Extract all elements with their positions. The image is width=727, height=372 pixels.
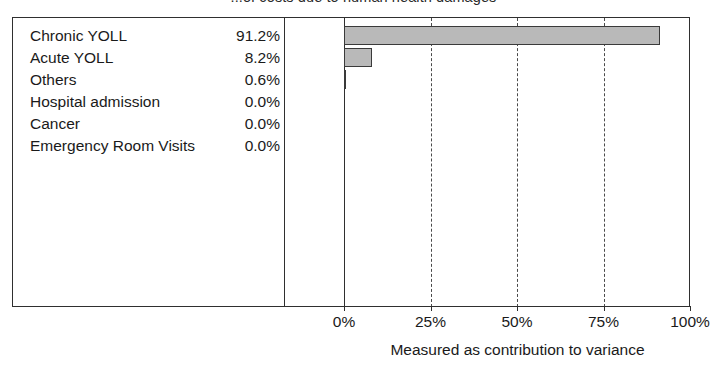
table-row: Acute YOLL8.2%	[13, 47, 284, 69]
bar-slot	[344, 69, 690, 91]
bar-slot	[344, 25, 690, 47]
bar	[344, 26, 660, 45]
bar	[344, 70, 346, 89]
x-axis-tick	[517, 306, 518, 311]
bar-slot	[344, 113, 690, 135]
category-label: Cancer	[13, 116, 206, 132]
table-row: Chronic YOLL91.2%	[13, 25, 284, 47]
category-value: 0.0%	[206, 94, 284, 110]
x-axis-tick-label: 25%	[415, 313, 446, 331]
category-value: 91.2%	[206, 28, 284, 44]
category-value: 8.2%	[206, 50, 284, 66]
chart-title: ...of costs due to human health damages	[0, 0, 727, 5]
table-row: Hospital admission0.0%	[13, 91, 284, 113]
bar	[344, 48, 372, 67]
category-label: Acute YOLL	[13, 50, 206, 66]
x-axis-tick-label: 0%	[333, 313, 355, 331]
table-row: Emergency Room Visits0.0%	[13, 135, 284, 157]
x-axis-tick-label: 100%	[670, 313, 710, 331]
x-axis-tick-labels: 0%25%50%75%100%	[0, 313, 727, 333]
category-label: Others	[13, 72, 206, 88]
x-axis-tick	[604, 306, 605, 311]
bar-slot	[344, 135, 690, 157]
category-label: Chronic YOLL	[13, 28, 206, 44]
bar-slot	[344, 91, 690, 113]
x-axis-title: Measured as contribution to variance	[344, 341, 691, 359]
category-value: 0.0%	[206, 138, 284, 154]
bar-slot	[344, 47, 690, 69]
bar-series	[344, 18, 690, 307]
plot-area	[344, 18, 690, 307]
x-axis-tick	[690, 306, 691, 311]
category-label: Hospital admission	[13, 94, 206, 110]
category-value: 0.0%	[206, 116, 284, 132]
category-value: 0.6%	[206, 72, 284, 88]
x-axis-tick-label: 50%	[501, 313, 532, 331]
column-divider	[284, 18, 285, 306]
table-row: Cancer0.0%	[13, 113, 284, 135]
category-value-table: Chronic YOLL91.2%Acute YOLL8.2%Others0.6…	[13, 18, 284, 157]
x-axis-tick	[431, 306, 432, 311]
x-axis-tick-label: 75%	[588, 313, 619, 331]
x-axis-tick	[344, 306, 345, 311]
table-row: Others0.6%	[13, 69, 284, 91]
category-label: Emergency Room Visits	[13, 138, 206, 154]
